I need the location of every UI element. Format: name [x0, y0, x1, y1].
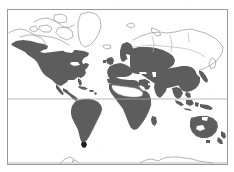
black-sea-gap: [139, 72, 147, 74]
range-tasmania: [206, 140, 210, 143]
world-distribution-map-figure: ( ~ ,) · ·: [0, 0, 234, 172]
range-ireland: [103, 60, 106, 63]
map-canvas: [0, 0, 234, 172]
